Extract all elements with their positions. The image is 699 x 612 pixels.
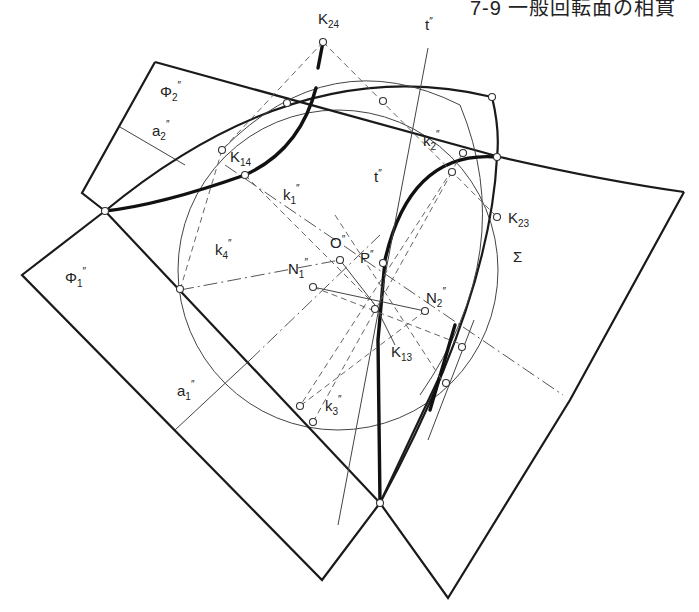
point-left-vertex — [102, 208, 109, 215]
point-n2 — [422, 308, 429, 315]
o-k13-line — [340, 260, 375, 305]
label-phi2: Φ2″ — [160, 80, 182, 103]
geometry-diagram: K24 Φ2″ a2″ K14 k2″ k1″ t″ t″ K23 O″ Σ k… — [0, 0, 699, 612]
inner-arc-thin — [222, 81, 483, 395]
axis-dashdot-main — [225, 165, 563, 395]
right-boundary — [380, 192, 684, 598]
right-top-edge — [500, 157, 684, 192]
label-k1: k1″ — [283, 183, 300, 206]
point-top-right — [380, 98, 387, 105]
point-k13 — [372, 306, 379, 313]
phi1-inner-edge — [105, 211, 380, 503]
right-lower-edge — [380, 367, 444, 503]
k24-k23-dash — [323, 42, 497, 217]
point-arc-end — [489, 94, 496, 101]
point-k2-lower — [449, 169, 456, 176]
label-sigma: Σ — [513, 248, 522, 265]
label-k4: k4″ — [215, 238, 232, 261]
label-a1: a1″ — [177, 379, 195, 402]
point-k4 — [177, 286, 184, 293]
label-n1: N1″ — [288, 257, 308, 280]
label-k14: K14 — [230, 148, 252, 168]
curve-k23 — [378, 157, 497, 503]
point-p — [380, 260, 387, 267]
n1-n2-line — [313, 287, 425, 311]
label-t-top: t″ — [425, 16, 433, 33]
point-o — [337, 257, 344, 264]
label-a2: a2″ — [152, 119, 170, 142]
point-right-2 — [443, 380, 450, 387]
point-phi2-k — [284, 100, 291, 107]
phi2-top-edge — [155, 62, 500, 157]
point-k23-top — [494, 154, 501, 161]
point-k14 — [219, 147, 226, 154]
point-bottom-vertex — [377, 500, 384, 507]
point-n1 — [310, 284, 317, 291]
label-t-mid: t″ — [374, 168, 382, 185]
label-n2: N2″ — [426, 286, 446, 309]
label-phi1: Φ1″ — [65, 266, 87, 289]
point-right-1 — [459, 344, 466, 351]
k24-k14-dash — [222, 42, 323, 150]
point-k14-lower — [242, 172, 249, 179]
phi2-boundary — [82, 62, 155, 211]
n1-dash — [313, 287, 463, 345]
point-k23 — [494, 214, 501, 221]
label-k3: k3″ — [325, 394, 342, 417]
point-k3-a — [297, 403, 304, 410]
label-o: O″ — [330, 234, 346, 251]
point-k24 — [320, 39, 327, 46]
point-k2 — [460, 150, 467, 157]
label-k23: K23 — [508, 209, 530, 229]
t-line — [338, 48, 428, 525]
label-k13: K13 — [391, 343, 413, 363]
point-k3-b — [310, 419, 317, 426]
phi1-boundary — [22, 211, 380, 580]
k2-dash-a — [300, 153, 463, 406]
label-k24: K24 — [318, 10, 340, 30]
label-p: P″ — [360, 249, 374, 266]
